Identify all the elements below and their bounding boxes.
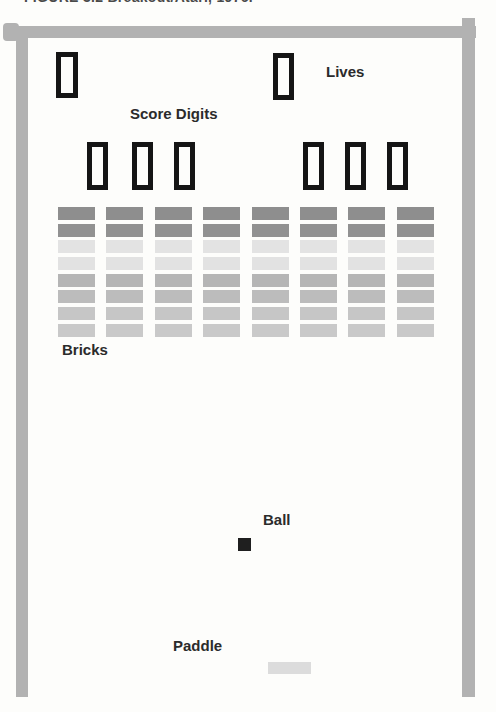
brick [397,257,434,270]
brick [203,257,240,270]
brick [348,324,385,337]
brick [300,307,337,320]
brick [300,324,337,337]
breakout-figure: FIGURE 3.2 Breakout/Atari, 1976. Lives S… [0,0,496,712]
score-digit-box [87,142,108,190]
brick [397,307,434,320]
lives-label: Lives [326,63,364,80]
brick [106,224,143,237]
brick [155,274,192,287]
brick [300,290,337,303]
brick [203,207,240,220]
brick [106,274,143,287]
brick [155,240,192,253]
ball-label: Ball [263,511,291,528]
brick [106,240,143,253]
brick [203,290,240,303]
brick [155,224,192,237]
score-digits-label: Score Digits [130,105,218,122]
brick [397,324,434,337]
brick [58,307,95,320]
brick [252,274,289,287]
brick [397,290,434,303]
brick [58,207,95,220]
brick [203,274,240,287]
brick [252,324,289,337]
brick [348,240,385,253]
brick [58,290,95,303]
brick [58,240,95,253]
brick [106,257,143,270]
brick [397,274,434,287]
brick [155,257,192,270]
paddle-label: Paddle [173,637,222,654]
brick [155,307,192,320]
brick [397,224,434,237]
brick [348,224,385,237]
score-digit-box [345,142,366,190]
brick [203,240,240,253]
paddle [268,662,311,674]
brick [300,257,337,270]
brick [252,224,289,237]
brick [155,290,192,303]
score-digit-box [387,142,408,190]
score-digit-box [174,142,195,190]
brick [348,207,385,220]
brick [397,240,434,253]
brick [300,240,337,253]
frame-left-wall [16,26,28,697]
brick [58,224,95,237]
brick [203,324,240,337]
lives-digit-box [273,53,294,100]
brick [203,307,240,320]
score-digit-box [303,142,324,190]
brick [106,290,143,303]
brick [155,207,192,220]
brick [300,274,337,287]
brick [348,274,385,287]
brick [58,257,95,270]
brick [348,290,385,303]
figure-caption: FIGURE 3.2 Breakout/Atari, 1976. [24,0,253,5]
brick [300,207,337,220]
brick [106,324,143,337]
ball [238,538,251,551]
brick [252,307,289,320]
brick [397,207,434,220]
frame-top-wall [6,26,476,38]
frame-right-wall [462,18,475,697]
score-digit-box [132,142,153,190]
brick [155,324,192,337]
brick [300,224,337,237]
brick [252,240,289,253]
brick [348,307,385,320]
bricks-label: Bricks [62,341,108,358]
serve-digit-box [56,52,78,98]
brick [58,324,95,337]
brick [252,257,289,270]
bricks-grid [58,207,438,339]
brick [58,274,95,287]
brick [106,207,143,220]
brick [203,224,240,237]
brick [348,257,385,270]
brick [252,290,289,303]
brick [252,207,289,220]
brick [106,307,143,320]
